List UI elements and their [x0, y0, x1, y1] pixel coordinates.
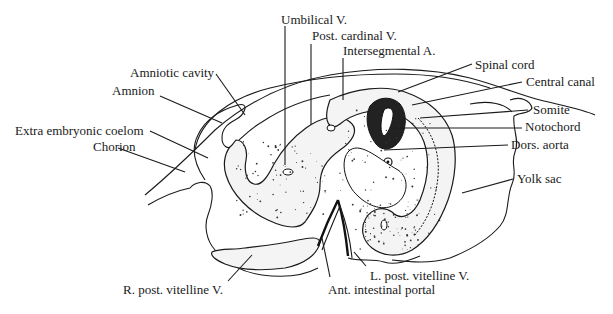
speckle [412, 151, 413, 152]
umbilical-vessel [283, 169, 293, 175]
speckle [412, 123, 413, 124]
label-spinal-cord: Spinal cord [475, 58, 535, 71]
speckle [300, 191, 301, 192]
speckle [381, 232, 383, 234]
speckle [275, 210, 277, 212]
speckle [422, 133, 423, 134]
speckle [255, 171, 257, 173]
speckle [365, 225, 366, 226]
speckle [367, 215, 368, 216]
speckle [276, 216, 278, 218]
speckle [242, 210, 244, 212]
speckle [412, 232, 413, 233]
speckle [246, 211, 248, 213]
speckle [238, 165, 239, 166]
speckle [396, 137, 398, 139]
speckle [365, 231, 367, 233]
speckle [383, 242, 384, 243]
label-dors-aorta: Dors. aorta [511, 138, 569, 151]
speckle [388, 221, 389, 222]
leader-amnion [160, 96, 222, 123]
speckle [259, 200, 261, 202]
speckle [367, 200, 369, 202]
speckle [341, 212, 342, 213]
speckle [236, 168, 238, 170]
speckle [408, 206, 409, 207]
speckle [267, 145, 269, 147]
label-intersegmental-a: Intersegmental A. [343, 44, 435, 57]
speckle [410, 209, 411, 210]
speckle [306, 212, 307, 213]
speckle [257, 175, 258, 176]
label-amniotic-cavity: Amniotic cavity [130, 66, 214, 79]
speckle [257, 193, 258, 194]
yolk-sac-inner-outline [470, 102, 512, 112]
speckle [296, 153, 297, 154]
speckle [415, 204, 416, 205]
speckle [366, 212, 367, 213]
speckle [252, 173, 253, 174]
leader-spinal-cord [398, 64, 472, 92]
speckle [399, 235, 400, 236]
speckle [393, 214, 395, 216]
speckle [436, 189, 437, 190]
speckle [270, 154, 272, 156]
speckle [367, 205, 368, 206]
speckle [359, 248, 361, 250]
speckle [374, 215, 376, 217]
speckle [405, 228, 407, 230]
label-chorion: Chorion [93, 140, 136, 153]
speckle [322, 213, 324, 215]
speckle [272, 194, 274, 196]
speckle [240, 214, 242, 216]
embryo-drawing [0, 0, 613, 314]
speckle [373, 228, 375, 230]
speckle [257, 199, 258, 200]
label-extra-embryonic-coelom: Extra embryonic coelom [15, 124, 144, 137]
speckle [249, 196, 251, 198]
speckle [367, 155, 368, 156]
speckle [279, 144, 280, 145]
speckle [390, 203, 392, 205]
speckle [378, 240, 380, 242]
speckle [419, 213, 420, 214]
speckle [401, 160, 402, 161]
label-central-canal: Central canal [526, 75, 595, 88]
speckle [416, 214, 418, 216]
speckle [426, 167, 427, 168]
label-l-post-vitelline-v: L. post. vitelline V. [370, 269, 469, 282]
speckle [352, 204, 354, 206]
speckle [371, 190, 372, 191]
speckle [368, 109, 369, 110]
speckle [413, 227, 414, 228]
speckle [406, 156, 408, 158]
speckle [256, 163, 258, 165]
speckle [310, 153, 311, 154]
speckle [272, 162, 274, 164]
speckle [356, 110, 358, 112]
speckle [354, 129, 355, 130]
speckle [243, 141, 244, 142]
speckle [285, 166, 286, 167]
speckle [397, 228, 398, 229]
speckle [365, 189, 366, 190]
speckle [429, 123, 430, 124]
speckle [369, 239, 370, 240]
speckle [316, 161, 317, 162]
speckle [383, 213, 385, 215]
speckle [390, 231, 391, 232]
speckle [353, 158, 355, 160]
speckle [405, 210, 406, 211]
speckle [286, 178, 287, 179]
speckle [273, 179, 275, 181]
speckle [303, 202, 304, 203]
leader-amniotic-cavity [216, 74, 245, 115]
speckle [381, 225, 382, 226]
speckle [418, 201, 419, 202]
label-yolk-sac: Yolk sac [517, 172, 562, 185]
speckle [384, 218, 386, 220]
speckle [407, 249, 408, 250]
speckle [386, 142, 388, 144]
speckle [413, 169, 414, 170]
speckle [401, 227, 403, 229]
